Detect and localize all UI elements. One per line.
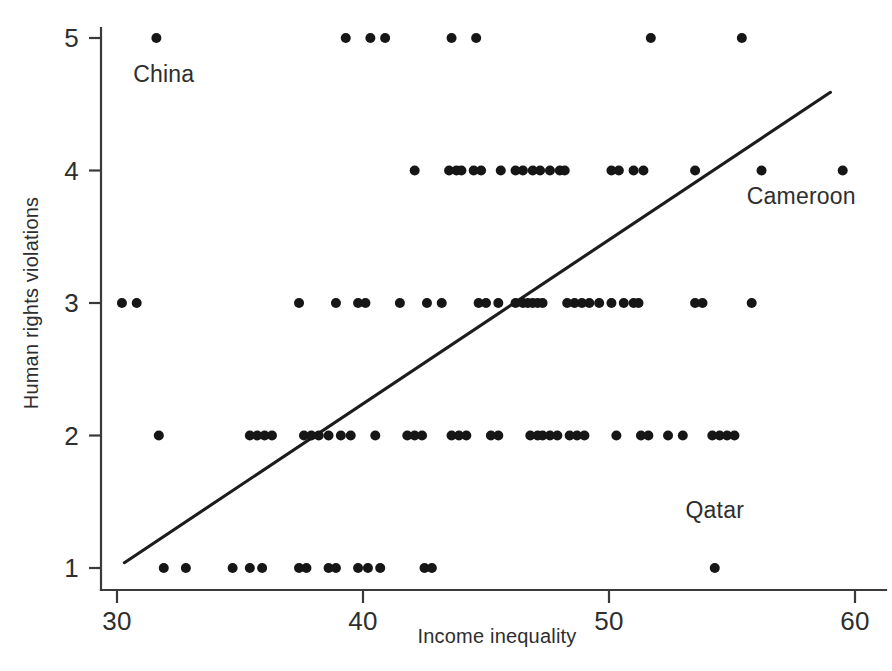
data-point xyxy=(395,298,405,308)
data-point xyxy=(629,166,639,176)
axis-titles-layer: Income inequality Human rights violation… xyxy=(20,197,577,647)
data-point xyxy=(606,298,616,308)
data-point xyxy=(560,166,570,176)
data-point xyxy=(476,166,486,176)
data-point xyxy=(535,166,545,176)
data-point xyxy=(614,166,624,176)
scatter-plot-figure: 1234530405060 ChinaCameroonQatar Income … xyxy=(0,0,892,671)
y-axis-tick-label: 5 xyxy=(64,23,79,53)
annotations-layer: ChinaCameroonQatar xyxy=(133,61,856,523)
data-point xyxy=(324,431,334,441)
data-point xyxy=(447,33,457,43)
data-point xyxy=(437,298,447,308)
data-point xyxy=(461,431,471,441)
x-axis-tick-label: 30 xyxy=(102,606,132,636)
data-point xyxy=(584,298,594,308)
data-point xyxy=(710,563,720,573)
data-point xyxy=(346,431,356,441)
data-point xyxy=(471,33,481,43)
data-point xyxy=(132,298,142,308)
data-point xyxy=(257,563,267,573)
x-axis-tick-label: 40 xyxy=(348,606,378,636)
data-point xyxy=(481,298,491,308)
tick-labels-layer: 1234530405060 xyxy=(64,23,870,636)
data-point xyxy=(747,298,757,308)
data-point xyxy=(422,298,432,308)
data-point xyxy=(643,431,653,441)
x-axis-title: Income inequality xyxy=(417,625,576,647)
x-axis-tick-label: 50 xyxy=(594,606,624,636)
data-point xyxy=(410,166,420,176)
data-point xyxy=(375,563,385,573)
data-point xyxy=(228,563,238,573)
data-point xyxy=(301,563,311,573)
data-point xyxy=(634,298,644,308)
data-point xyxy=(545,166,555,176)
y-axis-tick-label: 3 xyxy=(64,288,79,318)
data-point xyxy=(611,431,621,441)
data-point xyxy=(496,166,506,176)
data-point xyxy=(314,431,324,441)
data-point xyxy=(151,33,161,43)
annotation-label: Qatar xyxy=(686,497,745,523)
data-point xyxy=(360,298,370,308)
y-axis-title: Human rights violations xyxy=(20,197,42,409)
data-point xyxy=(331,563,341,573)
data-point xyxy=(678,431,688,441)
plot-canvas: 1234530405060 ChinaCameroonQatar Income … xyxy=(0,0,892,671)
data-point xyxy=(638,166,648,176)
data-point xyxy=(353,563,363,573)
data-point xyxy=(245,563,255,573)
data-point xyxy=(737,33,747,43)
data-point xyxy=(267,431,277,441)
data-point xyxy=(294,298,304,308)
data-point xyxy=(365,33,375,43)
data-point xyxy=(456,166,466,176)
data-point xyxy=(341,33,351,43)
data-point xyxy=(838,166,848,176)
data-point xyxy=(646,33,656,43)
data-point xyxy=(697,298,707,308)
data-point xyxy=(363,563,373,573)
data-point xyxy=(380,33,390,43)
data-point xyxy=(518,166,528,176)
caption-fragment xyxy=(0,653,892,671)
y-axis-tick-label: 4 xyxy=(64,156,79,186)
y-axis-tick-label: 2 xyxy=(64,421,79,451)
data-point xyxy=(370,431,380,441)
data-point xyxy=(690,166,700,176)
data-point xyxy=(331,298,341,308)
data-point xyxy=(538,298,548,308)
x-axis-tick-label: 60 xyxy=(840,606,870,636)
data-point xyxy=(619,298,629,308)
data-point xyxy=(594,298,604,308)
annotation-label: Cameroon xyxy=(747,183,856,209)
data-point xyxy=(159,563,169,573)
data-point xyxy=(729,431,739,441)
data-point xyxy=(117,298,127,308)
regression-line-layer xyxy=(124,92,830,562)
data-point xyxy=(663,431,673,441)
data-point xyxy=(757,166,767,176)
data-point xyxy=(579,431,589,441)
data-points-layer xyxy=(117,33,848,573)
regression-line xyxy=(124,92,830,562)
data-point xyxy=(552,431,562,441)
annotation-label: China xyxy=(133,61,194,87)
data-point xyxy=(417,431,427,441)
y-axis-tick-label: 1 xyxy=(64,553,79,583)
axes-layer xyxy=(89,28,886,603)
data-point xyxy=(427,563,437,573)
data-point xyxy=(336,431,346,441)
data-point xyxy=(493,298,503,308)
data-point xyxy=(181,563,191,573)
data-point xyxy=(493,431,503,441)
data-point xyxy=(154,431,164,441)
